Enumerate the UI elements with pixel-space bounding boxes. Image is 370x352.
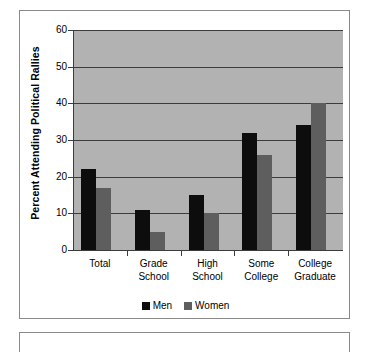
x-label-line: Grade	[127, 257, 181, 270]
x-label-line: School	[127, 270, 181, 283]
x-category-high-school: HighSchool	[181, 257, 235, 283]
x-label-line: College	[234, 270, 288, 283]
bar-chart: Percent Attending Political Rallies 0102…	[20, 11, 351, 320]
bar-women-some-college	[257, 155, 272, 250]
legend-label-men: Men	[153, 300, 172, 311]
bar-men-high-school	[189, 195, 204, 250]
chart-legend: MenWomen	[20, 299, 351, 311]
bar-men-total	[81, 169, 96, 250]
y-tick-label-10: 10	[23, 208, 67, 218]
x-category-some-college: SomeCollege	[234, 257, 288, 283]
x-tick-3	[234, 251, 235, 256]
bar-women-high-school	[204, 213, 219, 250]
legend-item-men: Men	[142, 300, 172, 311]
x-category-college-graduate: CollegeGraduate	[288, 257, 342, 283]
bar-men-college-graduate	[296, 125, 311, 250]
bar-women-total	[96, 188, 111, 250]
x-tick-1	[127, 251, 128, 256]
x-tick-2	[181, 251, 182, 256]
y-tick-label-20: 20	[23, 172, 67, 182]
x-category-grade-school: GradeSchool	[127, 257, 181, 283]
x-label-line: Graduate	[288, 270, 342, 283]
bar-women-college-graduate	[311, 103, 326, 250]
bars-layer	[73, 30, 342, 250]
y-tick-label-0: 0	[23, 245, 67, 255]
x-label-line: College	[288, 257, 342, 270]
bar-men-grade-school	[135, 210, 150, 250]
y-tick-label-60: 60	[23, 25, 67, 35]
figure-panel: Percent Attending Political Rallies 0102…	[19, 10, 350, 319]
x-label-line: Some	[234, 257, 288, 270]
legend-label-women: Women	[195, 300, 229, 311]
x-label-line: School	[181, 270, 235, 283]
y-tick-label-30: 30	[23, 135, 67, 145]
x-category-total: Total	[73, 257, 127, 270]
y-tick-label-40: 40	[23, 98, 67, 108]
legend-item-women: Women	[184, 300, 229, 311]
legend-swatch-men-icon	[142, 302, 150, 310]
x-label-line: Total	[73, 257, 127, 270]
bar-men-some-college	[242, 133, 257, 250]
y-tick-label-50: 50	[23, 62, 67, 72]
next-figure-panel	[19, 332, 350, 352]
legend-swatch-women-icon	[184, 302, 192, 310]
bar-women-grade-school	[150, 232, 165, 250]
x-label-line: High	[181, 257, 235, 270]
x-tick-4	[288, 251, 289, 256]
x-axis-labels: TotalGradeSchoolHighSchoolSomeCollegeCol…	[73, 257, 342, 289]
